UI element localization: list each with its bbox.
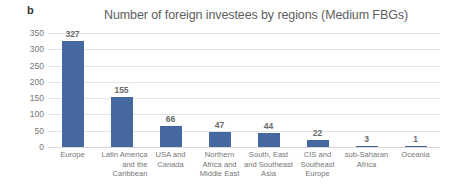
x-axis-category-label: South, Eastand SoutheastAsia xyxy=(243,150,295,179)
x-axis-category-line: sub-Saharan xyxy=(341,150,393,160)
gridline xyxy=(48,33,440,34)
bar-value-label: 47 xyxy=(197,121,243,130)
x-axis-category-label: Oceania xyxy=(390,150,442,160)
y-axis-tick-label: 250 xyxy=(0,61,44,70)
x-axis-category-line: Middle East xyxy=(194,169,246,179)
x-axis-category-line: Canada xyxy=(145,160,197,170)
x-axis-category-line: Africa and xyxy=(194,160,246,170)
gridline xyxy=(48,66,440,67)
gridline xyxy=(48,49,440,50)
x-axis-category-line: Latin America xyxy=(96,150,148,160)
x-axis-category-label: Europe xyxy=(47,150,99,160)
bar-value-label: 66 xyxy=(148,115,194,124)
x-axis-category-line: Africa xyxy=(341,160,393,170)
bar-value-label: 327 xyxy=(50,30,96,39)
bar[interactable] xyxy=(258,133,280,147)
bar[interactable] xyxy=(209,132,231,147)
x-axis-category-label: USA andCanada xyxy=(145,150,197,169)
bar-value-label: 3 xyxy=(344,135,390,144)
x-axis-category-line: Europe xyxy=(47,150,99,160)
bar-value-label: 1 xyxy=(393,135,439,144)
gridline xyxy=(48,82,440,83)
bar[interactable] xyxy=(307,140,329,147)
x-axis-category-line: Southeast xyxy=(292,160,344,170)
x-axis-category-label: Latin Americaand theCaribbean xyxy=(96,150,148,179)
x-axis-category-line: Caribbean xyxy=(96,169,148,179)
x-axis-category-line: Oceania xyxy=(390,150,442,160)
x-axis: EuropeLatin Americaand theCaribbeanUSA a… xyxy=(48,150,440,192)
gridline xyxy=(48,131,440,132)
chart-figure: b Number of foreign investees by regions… xyxy=(0,0,464,193)
x-axis-category-line: Asia xyxy=(243,169,295,179)
y-axis-tick-label: 300 xyxy=(0,45,44,54)
gridline xyxy=(48,98,440,99)
bar-value-label: 155 xyxy=(99,86,145,95)
gridline xyxy=(48,114,440,115)
plot-area: 3271556647442231 xyxy=(48,33,440,147)
bar[interactable] xyxy=(62,41,84,148)
x-axis-category-label: sub-SaharanAfrica xyxy=(341,150,393,169)
bar-value-label: 44 xyxy=(246,122,292,131)
y-axis-tick-label: 200 xyxy=(0,77,44,86)
x-axis-category-line: Europe xyxy=(292,169,344,179)
y-axis-tick-label: 50 xyxy=(0,126,44,135)
x-axis-category-label: CIS andSoutheastEurope xyxy=(292,150,344,179)
x-axis-category-line: CIS and xyxy=(292,150,344,160)
chart-title: Number of foreign investees by regions (… xyxy=(60,8,452,23)
x-axis-category-line: South, East xyxy=(243,150,295,160)
bar[interactable] xyxy=(405,146,427,147)
y-axis-tick-label: 100 xyxy=(0,110,44,119)
gridline xyxy=(48,147,440,148)
x-axis-category-line: Northern xyxy=(194,150,246,160)
bar[interactable] xyxy=(111,97,133,147)
bar-value-label: 22 xyxy=(295,129,341,138)
y-axis-tick-label: 0 xyxy=(0,143,44,152)
x-axis-category-line: USA and xyxy=(145,150,197,160)
x-axis-category-label: NorthernAfrica andMiddle East xyxy=(194,150,246,179)
x-axis-category-line: and Southeast xyxy=(243,160,295,170)
bar[interactable] xyxy=(356,146,378,147)
bar[interactable] xyxy=(160,126,182,147)
panel-label: b xyxy=(27,4,34,16)
x-axis-category-line: and the xyxy=(96,160,148,170)
y-axis-tick-label: 350 xyxy=(0,29,44,38)
y-axis-tick-label: 150 xyxy=(0,94,44,103)
y-axis: 350300250200150100500 xyxy=(0,33,44,147)
